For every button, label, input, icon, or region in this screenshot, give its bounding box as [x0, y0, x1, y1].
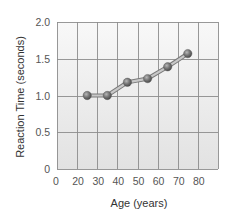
x-tick-label: 70: [173, 175, 185, 187]
x-axis-tick-labels: 020304050607080: [53, 175, 205, 187]
plot-background: [57, 22, 218, 169]
plot-area: [57, 22, 219, 170]
data-point-marker: [123, 78, 131, 86]
y-tick-label: 0: [44, 163, 50, 175]
y-axis-title: Reaction Time (seconds): [14, 36, 26, 158]
x-tick-label: 80: [193, 175, 205, 187]
y-axis-tick-labels: 00.51.01.52.0: [35, 16, 50, 175]
chart-canvas: 00.51.01.52.0 020304050607080 Age (years…: [0, 0, 228, 220]
x-tick-label: 0: [53, 175, 59, 187]
data-point-marker: [103, 91, 111, 99]
x-tick-label: 30: [92, 175, 104, 187]
y-tick-label: 2.0: [35, 16, 50, 28]
y-tick-label: 1.0: [35, 90, 50, 102]
y-tick-label: 1.5: [35, 53, 50, 65]
x-tick-label: 60: [153, 175, 165, 187]
data-point-marker: [83, 91, 91, 99]
x-axis-title: Age (years): [111, 197, 168, 209]
data-point-marker: [184, 49, 192, 57]
y-tick-label: 0.5: [35, 126, 50, 138]
data-point-marker: [164, 63, 172, 71]
data-point-marker: [143, 74, 151, 82]
reaction-time-chart: 00.51.01.52.0 020304050607080 Age (years…: [0, 0, 228, 220]
x-tick-label: 20: [72, 175, 84, 187]
x-tick-label: 50: [133, 175, 145, 187]
x-tick-label: 40: [113, 175, 125, 187]
